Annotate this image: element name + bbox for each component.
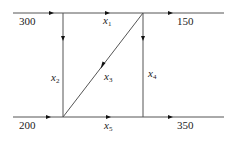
edge-x3-label: x3: [104, 71, 112, 84]
edge-x2-label: x2: [51, 72, 59, 85]
arrow-right-icon: [168, 115, 173, 119]
arrow-right-icon: [49, 11, 54, 15]
arrow-down-icon: [141, 36, 145, 41]
var-subscript: 3: [109, 76, 113, 84]
outflow-bottom-right-value: 350: [177, 120, 194, 131]
arrow-down-icon: [61, 36, 65, 41]
edge-x5-label: x5: [104, 120, 112, 133]
edge-x1-label: x1: [103, 15, 111, 28]
var-subscript: 1: [108, 20, 112, 28]
inflow-top-left-value: 300: [19, 16, 36, 27]
var-subscript: 2: [56, 77, 60, 85]
var-subscript: 4: [153, 73, 157, 81]
arrow-right-icon: [168, 11, 173, 15]
var-subscript: 5: [109, 125, 113, 133]
arrow-down-left-icon: [101, 62, 106, 70]
inflow-bottom-left-value: 200: [19, 120, 36, 131]
flow-network-diagram: 300 200 150 350 x1 x2 x3 x4 x5: [0, 0, 237, 141]
edge-x4-label: x4: [148, 68, 156, 81]
arrow-right-icon: [46, 115, 51, 119]
outflow-top-right-value: 150: [177, 16, 194, 27]
